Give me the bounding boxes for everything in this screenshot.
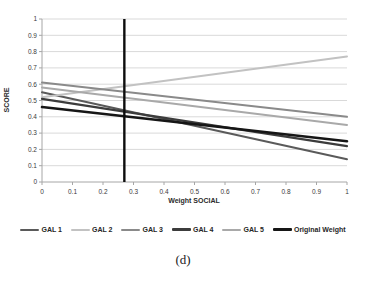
figure-panel-d: 00.10.20.30.40.50.60.70.80.9100.10.20.30… <box>0 0 366 283</box>
legend-swatch <box>20 229 39 231</box>
x-tick-label: 0.7 <box>251 188 260 195</box>
sensitivity-chart: 00.10.20.30.40.50.60.70.80.9100.10.20.30… <box>0 0 366 212</box>
legend-label: GAL 1 <box>41 226 62 233</box>
legend-swatch <box>222 229 241 231</box>
legend-swatch <box>71 229 90 231</box>
y-tick-label: 0.3 <box>28 129 37 136</box>
y-tick-label: 0.8 <box>28 48 37 55</box>
x-tick-label: 0.5 <box>190 188 199 195</box>
x-tick-label: 1 <box>345 188 349 195</box>
y-tick-label: 0.6 <box>28 81 37 88</box>
y-tick-label: 0.5 <box>28 97 37 104</box>
x-tick-label: 0.3 <box>129 188 138 195</box>
legend-item: GAL 4 <box>172 226 214 233</box>
x-tick-label: 0.8 <box>281 188 290 195</box>
x-tick-label: 0 <box>40 188 44 195</box>
legend-item: GAL 5 <box>222 226 264 233</box>
legend-swatch <box>273 228 292 231</box>
x-tick-label: 0.2 <box>98 188 107 195</box>
chart-legend: GAL 1GAL 2GAL 3GAL 4GAL 5Original Weight <box>0 226 366 233</box>
y-tick-label: 0.7 <box>28 64 37 71</box>
y-tick-label: 0.9 <box>28 32 37 39</box>
legend-label: GAL 5 <box>243 226 264 233</box>
y-tick-label: 0.4 <box>28 113 37 120</box>
legend-item: Original Weight <box>273 226 346 233</box>
legend-label: Original Weight <box>294 226 346 233</box>
x-tick-label: 0.4 <box>159 188 168 195</box>
legend-swatch <box>172 228 191 230</box>
series-line-gal-2 <box>42 56 347 97</box>
y-tick-label: 0 <box>33 178 37 185</box>
legend-label: GAL 4 <box>193 226 214 233</box>
x-tick-label: 0.9 <box>312 188 321 195</box>
legend-item: GAL 1 <box>20 226 62 233</box>
y-axis-title: SCORE <box>3 87 10 112</box>
legend-label: GAL 3 <box>142 226 163 233</box>
y-tick-label: 0.2 <box>28 146 37 153</box>
figure-caption: (d) <box>0 252 366 268</box>
legend-item: GAL 3 <box>121 226 163 233</box>
x-axis-title: Weight SOCIAL <box>168 197 220 205</box>
y-tick-label: 1 <box>33 15 37 22</box>
x-tick-label: 0.6 <box>220 188 229 195</box>
y-tick-label: 0.1 <box>28 162 37 169</box>
legend-swatch <box>121 229 140 231</box>
legend-label: GAL 2 <box>92 226 113 233</box>
x-tick-label: 0.1 <box>68 188 77 195</box>
legend-item: GAL 2 <box>71 226 113 233</box>
